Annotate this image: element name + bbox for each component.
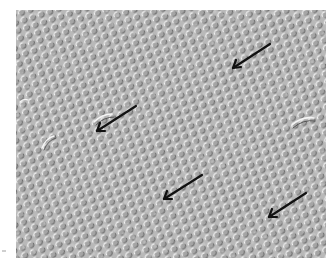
cell-texture xyxy=(16,10,326,258)
microscopy-image xyxy=(16,10,326,258)
edge-mark xyxy=(2,250,6,252)
